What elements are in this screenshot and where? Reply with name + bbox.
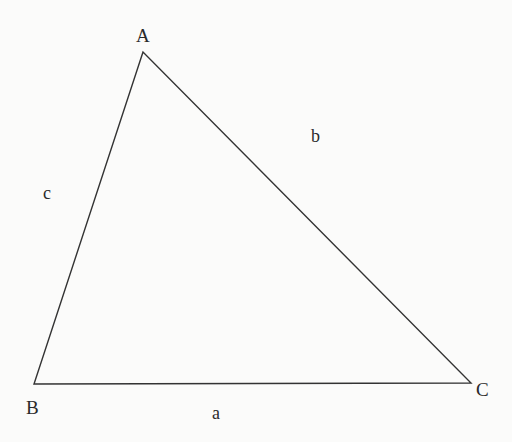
vertex-label-c: C xyxy=(476,380,489,399)
vertex-label-a: A xyxy=(136,26,150,45)
vertex-label-b: B xyxy=(26,398,39,417)
triangle-outline xyxy=(34,52,471,384)
side-label-b: b xyxy=(311,127,320,145)
side-label-a: a xyxy=(212,404,220,422)
triangle-shape xyxy=(0,0,512,442)
triangle-diagram: A B C a b c xyxy=(0,0,512,442)
side-label-c: c xyxy=(43,184,51,202)
